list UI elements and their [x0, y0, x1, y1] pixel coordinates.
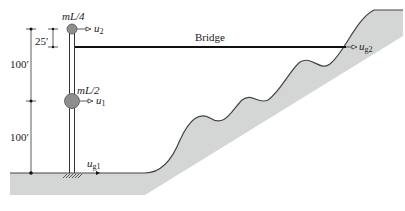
mass-top — [67, 24, 77, 34]
u2-label: u2 — [94, 22, 104, 36]
dim-100-upper-label: 100′ — [10, 58, 29, 70]
ug1-label: ug1 — [87, 157, 101, 171]
dim-25-label: 25′ — [35, 35, 48, 47]
dim-100-lower-label: 100′ — [10, 131, 29, 143]
mass-top-label: mL/4 — [62, 10, 85, 22]
u1-label: u1 — [96, 94, 106, 108]
tower-bridge-diagram: mL/4 mL/2 u2 u1 ug1 ug2 Bridge 25′ 100′ … — [0, 0, 405, 211]
bridge-label: Bridge — [195, 31, 225, 43]
